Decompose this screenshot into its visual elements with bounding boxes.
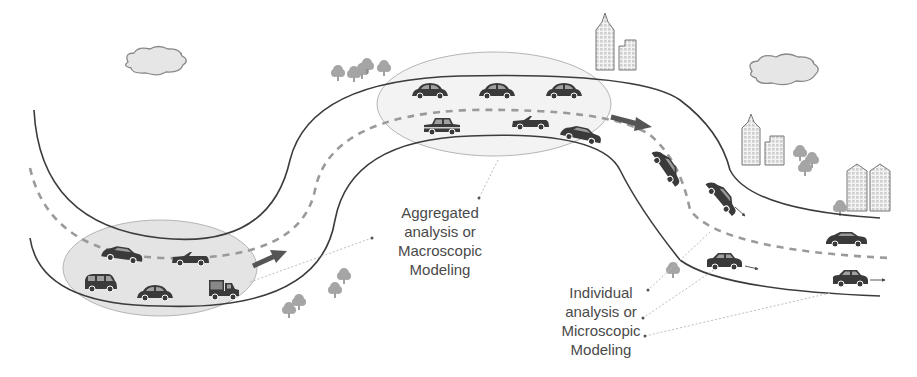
macroscopic-label-line-1: Aggregated — [368, 203, 512, 222]
buildings-top — [596, 13, 636, 70]
flow-arrow-top — [611, 117, 652, 131]
flow-arrow-left — [253, 250, 287, 266]
microscopic-label: Individual analysis or Microscopic Model… — [541, 283, 661, 359]
trees-top-left — [331, 58, 391, 82]
aggregation-ellipse-top — [377, 52, 611, 156]
microscopic-label-line-1: Individual — [541, 283, 661, 302]
microscopic-label-line-4: Modeling — [541, 340, 661, 359]
leader-lines — [250, 160, 830, 336]
vehicles-individual — [649, 146, 868, 287]
aggregation-ellipse-left — [63, 220, 257, 316]
cloud-right — [750, 54, 818, 85]
macroscopic-label-line-3: Macroscopic — [368, 241, 512, 260]
microscopic-label-line-2: analysis or — [541, 302, 661, 321]
cloud-left — [126, 47, 187, 75]
microscopic-label-line-3: Microscopic — [541, 321, 661, 340]
buildings-right-tall — [847, 164, 890, 211]
buildings-right-mid — [742, 114, 784, 165]
traffic-modeling-diagram: Aggregated analysis or Macroscopic Model… — [0, 0, 917, 377]
macroscopic-label-line-4: Modeling — [368, 260, 512, 279]
macroscopic-label-line-2: analysis or — [368, 222, 512, 241]
diagram-canvas — [0, 0, 917, 377]
macroscopic-label: Aggregated analysis or Macroscopic Model… — [368, 203, 512, 279]
trees-right — [793, 145, 847, 216]
